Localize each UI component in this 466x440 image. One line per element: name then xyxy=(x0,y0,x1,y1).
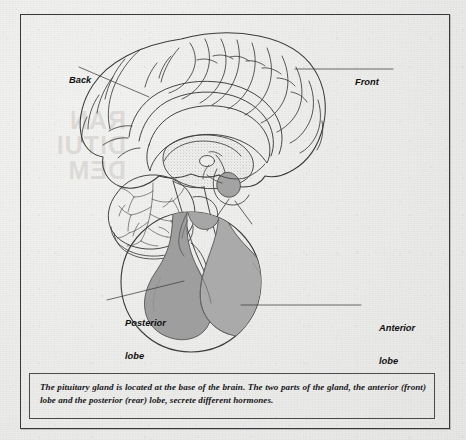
caption-box: The pituitary gland is located at the ba… xyxy=(29,373,435,419)
brain-sagittal-section xyxy=(80,33,325,285)
figure-caption: The pituitary gland is located at the ba… xyxy=(40,381,426,407)
label-front: Front xyxy=(355,77,379,88)
figure-frame: Back Front Posterior lobe Anterior lobe … xyxy=(20,14,450,429)
label-posterior-lobe-line2: lobe xyxy=(125,351,166,362)
label-posterior-lobe: Posterior lobe xyxy=(125,296,166,384)
label-back: Back xyxy=(69,75,91,86)
label-posterior-lobe-line1: Posterior xyxy=(125,318,166,329)
label-anterior-lobe-line1: Anterior xyxy=(379,323,415,334)
label-anterior-lobe-line2: lobe xyxy=(379,356,415,367)
